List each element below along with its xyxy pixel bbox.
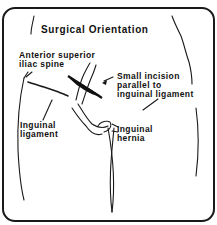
label-line: ligament [20,130,58,139]
label-line: iliac spine [19,60,95,69]
label-inguinal-ligament: Inguinal ligament [20,121,58,139]
left-body-contour [31,16,34,34]
label-line: inguinal ligament [117,90,194,99]
cord-lower-1 [72,108,102,135]
figure-title: Surgical Orientation [41,24,149,35]
leader-ing-lig [43,100,52,120]
leader-incision [104,77,113,81]
label-inguinal-hernia: Inguinal hernia [117,125,153,143]
cord-line-2 [82,65,96,104]
label-small-incision: Small incision parallel to inguinal liga… [117,72,194,99]
right-body-contour-lower [196,108,198,176]
leader-incision-lig [143,99,158,110]
inguinal-ligament-line [28,82,68,96]
label-anterior-superior-iliac-spine: Anterior superior iliac spine [19,51,95,69]
cord-lower-2 [78,104,108,127]
label-line: hernia [117,134,153,143]
left-hip-contour [18,78,24,200]
